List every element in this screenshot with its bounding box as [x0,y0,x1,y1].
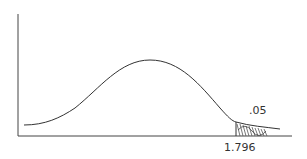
distribution-chart [0,0,307,159]
alpha-label: .05 [249,104,267,117]
rejection-region [236,122,267,136]
critical-value-label: 1.796 [224,141,256,154]
density-curve [24,60,280,129]
